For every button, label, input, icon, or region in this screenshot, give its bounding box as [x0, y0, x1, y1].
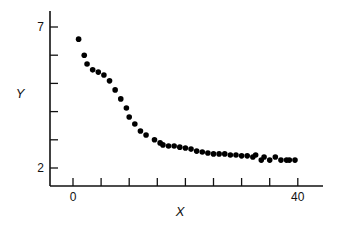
data-point — [253, 152, 259, 158]
data-point — [95, 69, 101, 75]
data-point — [216, 151, 222, 157]
x-axis-label: X — [175, 204, 186, 219]
data-point — [211, 151, 217, 157]
x-tick-label: 40 — [291, 190, 305, 204]
x-tick-label: 0 — [70, 190, 77, 204]
data-point — [244, 153, 250, 159]
data-point — [199, 149, 205, 155]
data-point — [118, 96, 124, 102]
data-point — [177, 144, 183, 150]
data-point — [233, 152, 239, 158]
data-points — [76, 36, 298, 163]
data-point — [101, 72, 107, 78]
data-point — [84, 61, 90, 67]
data-point — [138, 128, 144, 134]
data-point — [239, 153, 245, 159]
data-point — [228, 152, 234, 158]
data-point — [188, 146, 194, 152]
y-axis-label: Y — [16, 86, 26, 101]
data-point — [267, 157, 273, 163]
data-point — [152, 137, 158, 143]
data-point — [76, 36, 82, 42]
data-point — [166, 143, 172, 149]
data-point — [124, 105, 130, 111]
data-point — [292, 157, 298, 163]
data-point — [171, 143, 177, 149]
data-point — [112, 87, 118, 93]
y-tick-label: 2 — [37, 161, 44, 175]
data-point — [287, 157, 293, 163]
data-point — [278, 157, 284, 163]
data-point — [194, 148, 200, 154]
data-point — [273, 154, 279, 160]
data-point — [81, 52, 87, 58]
scatter-chart: 27 040 X Y — [0, 0, 353, 231]
data-point — [126, 114, 132, 120]
data-point — [183, 145, 189, 151]
data-point — [132, 121, 138, 127]
data-point — [160, 142, 166, 148]
data-point — [107, 78, 113, 84]
y-tick-label: 7 — [37, 20, 44, 34]
data-point — [222, 151, 228, 157]
data-point — [261, 154, 267, 160]
data-point — [143, 132, 149, 138]
y-ticks: 27 — [37, 20, 58, 175]
data-point — [90, 67, 96, 73]
data-point — [205, 150, 211, 156]
x-ticks: 040 — [70, 178, 305, 204]
